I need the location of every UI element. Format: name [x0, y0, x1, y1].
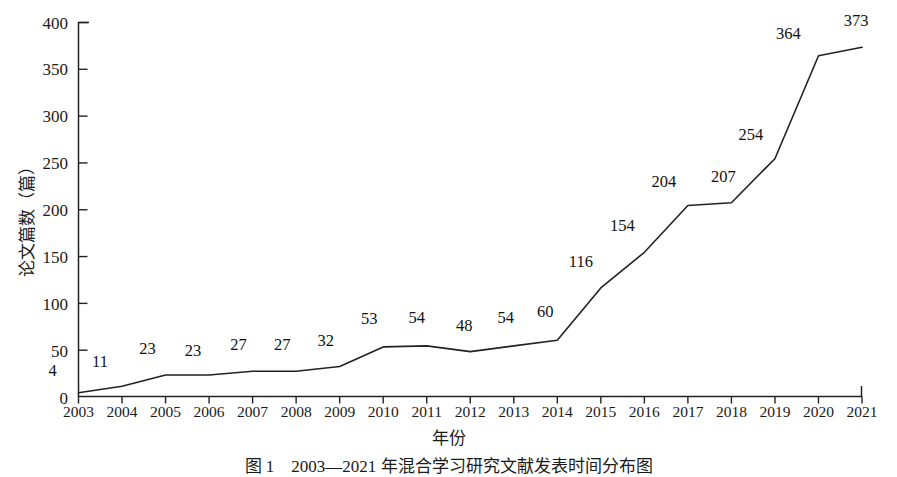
- x-tick-label: 2020: [795, 404, 841, 420]
- x-tick-label: 2008: [273, 404, 319, 420]
- x-tick-label: 2009: [317, 404, 363, 420]
- data-value-label: 364: [765, 26, 811, 43]
- x-tick-label: 2017: [665, 404, 711, 420]
- data-value-label: 32: [303, 333, 349, 350]
- data-value-label: 116: [558, 254, 604, 271]
- x-tick-label: 2003: [56, 404, 102, 420]
- data-value-label: 53: [346, 311, 392, 328]
- data-value-label: 204: [641, 174, 687, 191]
- x-tick-label: 2019: [752, 404, 798, 420]
- data-value-label: 54: [394, 310, 440, 327]
- figure-caption: 图 1 2003—2021 年混合学习研究文献发表时间分布图: [0, 452, 897, 477]
- x-tick-label: 2007: [230, 404, 276, 420]
- x-tick-label: 2014: [534, 404, 580, 420]
- x-axis-title: 年份: [0, 424, 897, 449]
- data-value-label: 154: [599, 218, 645, 235]
- x-tick-label: 2013: [491, 404, 537, 420]
- data-value-label: 48: [441, 318, 487, 335]
- data-value-label: 23: [170, 343, 216, 360]
- x-tick-label: 2006: [186, 404, 232, 420]
- x-tick-label: 2015: [578, 404, 624, 420]
- data-value-label: 373: [833, 13, 879, 30]
- x-tick-label: 2012: [447, 404, 493, 420]
- data-value-label: 11: [77, 354, 123, 371]
- data-value-label: 27: [216, 337, 262, 354]
- data-value-label: 254: [728, 127, 774, 144]
- data-value-label: 207: [700, 169, 746, 186]
- x-tick-label: 2010: [360, 404, 406, 420]
- x-tick-label: 2016: [621, 404, 667, 420]
- x-tick-label: 2004: [99, 404, 145, 420]
- x-tick-label: 2005: [143, 404, 189, 420]
- x-tick-label: 2011: [404, 404, 450, 420]
- data-value-label: 60: [522, 304, 568, 321]
- data-value-label: 27: [259, 337, 305, 354]
- x-tick-label: 2021: [839, 404, 885, 420]
- data-value-label: 23: [125, 341, 171, 358]
- x-tick-label: 2018: [708, 404, 754, 420]
- data-value-label: 4: [30, 363, 76, 380]
- y-axis-ticks: [79, 23, 88, 351]
